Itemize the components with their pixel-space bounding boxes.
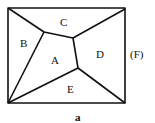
outer-region-label-f: (F) [130, 48, 144, 61]
edge-tl-to-p1 [8, 8, 44, 32]
region-label-a: A [51, 54, 59, 66]
region-map-diagram: B C A D E (F) a [0, 0, 155, 123]
edge-p2-to-tr [73, 9, 125, 38]
edge-p1-to-p2 [44, 32, 73, 38]
region-label-c: C [60, 16, 67, 28]
edge-p2-to-p3 [73, 38, 78, 68]
edge-p3-to-br [78, 68, 125, 103]
region-label-e: E [67, 83, 74, 95]
region-label-d: D [96, 48, 104, 60]
caption: a [75, 111, 81, 123]
region-label-b: B [20, 37, 27, 49]
